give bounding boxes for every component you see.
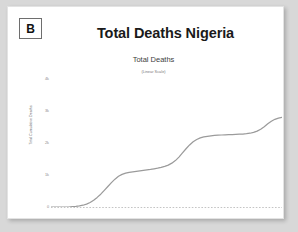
series-line-deaths xyxy=(51,117,282,207)
chart-title: Total Deaths xyxy=(21,55,286,64)
panel-label-text: B xyxy=(26,22,35,36)
y-axis-tick-label: 1k xyxy=(35,173,49,177)
line-chart-svg xyxy=(51,79,282,207)
y-axis-tick-label: 4k xyxy=(35,77,49,81)
screenshot-root: B Total Deaths Nigeria Total Deaths (Lin… xyxy=(0,0,298,232)
chart-card: B Total Deaths Nigeria Total Deaths (Lin… xyxy=(7,6,284,219)
y-axis-tick-label: 3k xyxy=(35,109,49,113)
y-axis-tick-label: 2k xyxy=(35,141,49,145)
page-title: Total Deaths Nigeria xyxy=(48,25,283,41)
plot-area xyxy=(51,79,282,207)
x-axis-line xyxy=(51,207,282,208)
panel-label-b: B xyxy=(19,18,42,39)
chart-subtitle: (Linear Scale) xyxy=(21,69,286,74)
y-axis-tick-label: 0 xyxy=(35,205,49,209)
x-axis-ticks: Mar 01Mar 05Mar 09Mar 13Mar 17Mar 21Mar … xyxy=(51,209,282,232)
y-axis-ticks: 01k2k3k4k xyxy=(27,79,49,207)
chart-container: Total Deaths (Linear Scale) Total Cumula… xyxy=(21,51,286,223)
